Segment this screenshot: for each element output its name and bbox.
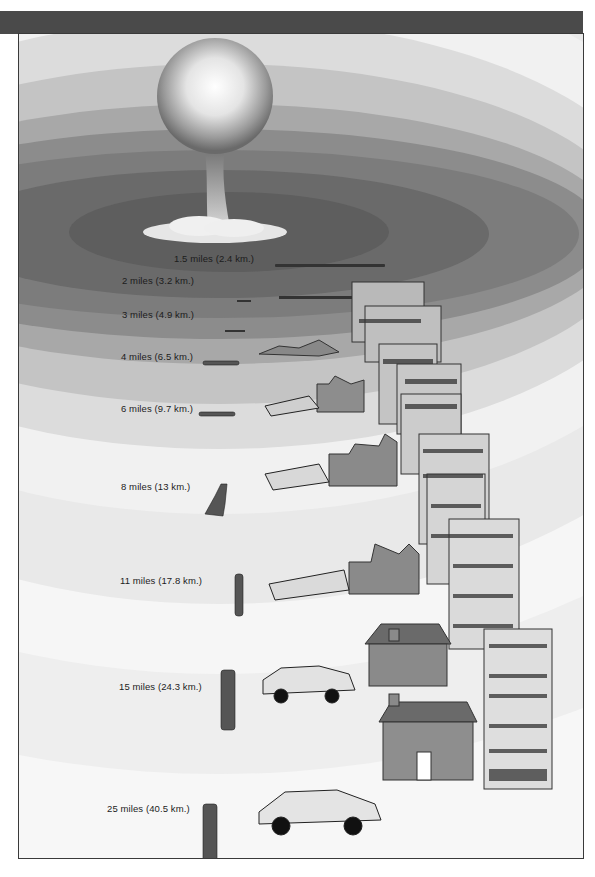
- zone-label: 1.5 miles (2.4 km.): [174, 253, 254, 264]
- header-bar: [0, 11, 583, 34]
- zone-label: 4 miles (6.5 km.): [121, 351, 193, 362]
- zone-label: 8 miles (13 km.): [121, 481, 190, 492]
- zone-label: 6 miles (9.7 km.): [121, 403, 193, 414]
- zone-label: 15 miles (24.3 km.): [119, 681, 202, 692]
- zone-label: 11 miles (17.8 km.): [120, 575, 202, 586]
- zone-label: 2 miles (3.2 km.): [122, 275, 194, 286]
- zone-label: 25 miles (40.5 km.): [107, 803, 190, 814]
- blast-diagram-panel: 1.5 miles (2.4 km.) 2 miles (3.2 km.) 3 …: [18, 33, 584, 859]
- zone-label: 3 miles (4.9 km.): [122, 309, 194, 320]
- blast-zones-illustration: [19, 34, 583, 858]
